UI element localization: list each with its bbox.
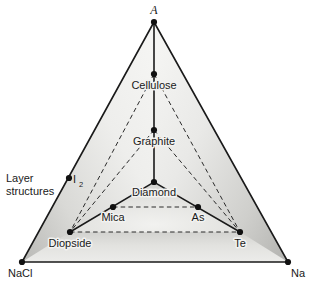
label-nacl: NaCl: [8, 267, 32, 279]
layer-structures-line1: Layer: [6, 172, 34, 184]
layer-structures-line2: structures: [6, 185, 55, 197]
label-diopside: Diopside: [49, 237, 92, 249]
label-graphite: Graphite: [133, 135, 175, 147]
point-a[interactable]: [151, 19, 157, 25]
ternary-diagram-canvas: A NaCl Na Cellulose Graphite Diamond Mic…: [0, 0, 313, 284]
label-na: Na: [291, 267, 306, 279]
point-diopside[interactable]: [67, 229, 73, 235]
point-diamond[interactable]: [151, 179, 157, 185]
label-iodine-main: I: [73, 173, 76, 185]
point-nacl[interactable]: [19, 259, 25, 265]
point-te[interactable]: [237, 229, 243, 235]
label-cellulose: Cellulose: [131, 79, 176, 91]
label-as: As: [192, 211, 205, 223]
point-cellulose[interactable]: [151, 71, 157, 77]
point-graphite[interactable]: [151, 127, 157, 133]
point-mica[interactable]: [110, 204, 116, 210]
label-a: A: [149, 3, 158, 17]
point-na[interactable]: [285, 259, 291, 265]
point-as[interactable]: [195, 204, 201, 210]
label-diamond: Diamond: [132, 186, 176, 198]
label-mica: Mica: [101, 211, 125, 223]
label-te: Te: [234, 237, 246, 249]
label-layer-structures: Layer structures: [6, 172, 55, 197]
ternary-diagram: A NaCl Na Cellulose Graphite Diamond Mic…: [0, 0, 313, 284]
point-iodine[interactable]: [66, 175, 72, 181]
label-iodine-subscript: 2: [79, 180, 83, 189]
